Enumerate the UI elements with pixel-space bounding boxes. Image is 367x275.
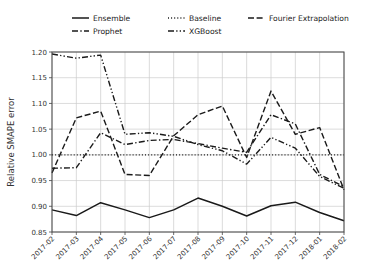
x-tick-label: 2017-05 [103, 235, 129, 261]
y-tick-label: 1.05 [31, 126, 47, 134]
x-tick-label: 2017-09 [200, 235, 226, 261]
x-tick-label: 2017-11 [249, 235, 275, 261]
legend-label-prophet: Prophet [93, 27, 122, 36]
x-tick-label: 2017-07 [152, 235, 178, 261]
x-tick-label: 2018-02 [322, 235, 348, 261]
x-tick-label: 2017-12 [273, 235, 299, 261]
x-tick-label: 2017-04 [79, 234, 106, 261]
x-tick-label: 2017-03 [54, 235, 80, 261]
y-axis-label: Relative SMAPE error [6, 97, 16, 187]
legend-label-fourier-extrapolation: Fourier Extrapolation [269, 14, 349, 23]
x-tick-label: 2017-06 [127, 234, 154, 261]
y-tick-label: 1.00 [31, 151, 47, 159]
legend-label-xgboost: XGBoost [189, 27, 222, 36]
y-tick-label: 1.10 [31, 100, 47, 108]
y-tick-label: 0.90 [31, 203, 47, 211]
y-tick-label: 0.95 [31, 177, 47, 185]
x-tick-label: 2017-10 [225, 235, 251, 261]
relative-smape-error-line-chart: 0.850.900.951.001.051.101.151.202017-022… [0, 0, 367, 275]
y-tick-label: 1.15 [31, 74, 47, 82]
x-tick-label: 2017-02 [30, 235, 56, 261]
y-tick-label: 0.85 [31, 229, 47, 237]
x-tick-label: 2017-08 [176, 235, 202, 261]
chart-figure: 0.850.900.951.001.051.101.151.202017-022… [0, 0, 367, 275]
y-tick-label: 1.20 [31, 49, 47, 57]
legend-label-ensemble: Ensemble [93, 14, 131, 23]
x-tick-label: 2018-01 [298, 235, 324, 261]
legend-label-baseline: Baseline [189, 14, 222, 23]
